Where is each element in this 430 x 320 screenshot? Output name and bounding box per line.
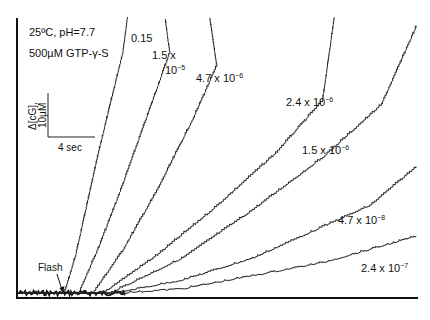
series-label-6: 2.4 x 10−7 (361, 262, 408, 274)
series-label-5: 4.7 x 10−8 (338, 214, 385, 226)
series-label-1-exponent: 10−5 (165, 64, 185, 76)
series-label-1: 1.5 x (152, 49, 176, 61)
conditions-text-1: 25ºC, pH=7.7 (29, 26, 95, 38)
series-label-2: 4.7 x 10−6 (196, 72, 243, 84)
flash-label: Flash (38, 262, 62, 273)
conditions-text-2: 500µM GTP-γ-S (29, 47, 109, 59)
series-label-0: 0.15 (131, 32, 152, 44)
labels-group: 0.151.5 x10−54.7 x 10−62.4 x 10−61.5 x 1… (131, 32, 408, 274)
scale-x-label: 4 sec (58, 142, 82, 153)
series-label-3: 2.4 x 10−6 (286, 96, 333, 108)
series-line-5 (18, 167, 416, 294)
scale-y-label-2: 10µM (37, 103, 48, 128)
chart: 25ºC, pH=7.7 500µM GTP-γ-S Δ[cG], 10µM 4… (0, 0, 430, 320)
series-line-2 (18, 18, 217, 293)
series-line-1 (18, 19, 170, 293)
series-label-4: 1.5 x 10−6 (302, 144, 349, 156)
